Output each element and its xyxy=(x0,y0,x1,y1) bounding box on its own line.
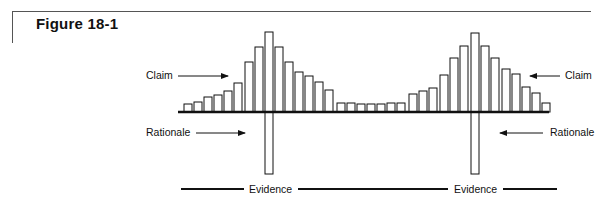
claim-bar xyxy=(295,72,303,112)
claim-bar xyxy=(512,74,520,112)
rationale-label-right: Rationale xyxy=(550,126,595,138)
claim-bar xyxy=(387,103,395,112)
claim-bar xyxy=(491,58,499,112)
claim-bar xyxy=(315,82,323,112)
claim-bar xyxy=(419,91,427,112)
claim-bar xyxy=(245,62,253,112)
claim-bar xyxy=(460,46,468,112)
claim-bar xyxy=(522,87,530,112)
claim-bars-group xyxy=(184,32,550,112)
claim-bar xyxy=(471,33,479,112)
claim-bar xyxy=(337,103,345,112)
claim-bar xyxy=(542,103,550,112)
claim-bar xyxy=(450,58,458,112)
rationale-bar xyxy=(471,112,479,174)
claim-bar xyxy=(275,47,283,112)
claim-bar xyxy=(204,97,212,112)
claim-label-left: Claim xyxy=(146,69,173,81)
claim-bar xyxy=(214,95,222,112)
claim-bar xyxy=(440,75,448,112)
claim-bar xyxy=(265,32,273,112)
claim-bar xyxy=(409,94,417,112)
claim-bar xyxy=(397,103,405,112)
rationale-bar xyxy=(265,112,273,174)
claim-bar xyxy=(234,83,242,112)
evidence-label-left: Evidence xyxy=(249,183,292,195)
rationale-bars-group xyxy=(265,112,479,174)
claim-bar xyxy=(532,93,540,112)
rationale-label-left: Rationale xyxy=(146,126,191,138)
claim-rationale-evidence-diagram: Claim Claim Rationale Rationale Evidence… xyxy=(0,0,605,210)
evidence-label-right: Evidence xyxy=(454,183,497,195)
claim-bar xyxy=(194,102,202,112)
claim-bar xyxy=(347,103,355,112)
claim-label-right: Claim xyxy=(565,69,592,81)
claim-bar xyxy=(429,88,437,112)
claim-bar xyxy=(224,91,232,112)
claim-bar xyxy=(255,47,263,112)
claim-bar xyxy=(502,69,510,112)
claim-bar xyxy=(481,46,489,112)
claim-bar xyxy=(305,76,313,112)
claim-bar xyxy=(285,62,293,112)
claim-bar xyxy=(325,90,333,112)
